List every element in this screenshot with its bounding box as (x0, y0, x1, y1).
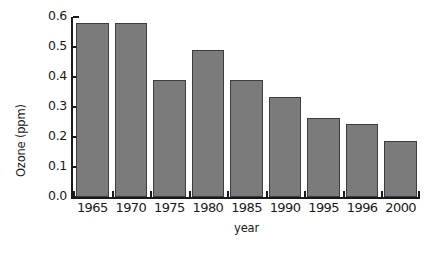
x-tick-mark (189, 191, 191, 198)
ozone-bar-chart: Ozone (ppm) 0.00.10.20.30.40.50.6 196519… (0, 0, 434, 255)
y-tick-label: 0.2 (7, 128, 67, 143)
x-tick-labels: 196519701975198019851990199519962000 (73, 200, 420, 218)
x-tick-mark (381, 191, 383, 198)
bar (307, 118, 340, 197)
x-tick-label: 1975 (150, 200, 189, 215)
bar (346, 124, 379, 197)
x-axis-line (71, 197, 420, 199)
y-tick-labels: 0.00.10.20.30.40.50.6 (5, 17, 67, 197)
x-tick-label: 1990 (266, 200, 305, 215)
bar (192, 50, 225, 197)
y-tick-label: 0.4 (7, 68, 67, 83)
x-tick-label: 1995 (304, 200, 343, 215)
x-tick-mark (73, 191, 75, 198)
bar (76, 23, 109, 197)
bar (153, 80, 186, 197)
x-tick-label: 2000 (381, 200, 420, 215)
x-tick-mark (304, 191, 306, 198)
bar (384, 141, 417, 197)
x-tick-mark (418, 191, 420, 198)
y-tick-mark (73, 16, 79, 18)
x-tick-label: 1970 (112, 200, 151, 215)
x-tick-mark (343, 191, 345, 198)
bar (230, 80, 263, 197)
y-tick-label: 0.1 (7, 158, 67, 173)
x-tick-label: 1980 (189, 200, 228, 215)
x-tick-label: 1965 (73, 200, 112, 215)
x-tick-mark (150, 191, 152, 198)
plot-area: 0.00.10.20.30.40.50.6 (73, 17, 420, 197)
x-axis-title: year (73, 221, 420, 235)
y-tick-label: 0.0 (7, 188, 67, 203)
y-tick-label: 0.3 (7, 98, 67, 113)
x-tick-label: 1985 (227, 200, 266, 215)
y-tick-label: 0.6 (7, 8, 67, 23)
x-tick-mark (112, 191, 114, 198)
y-tick-label: 0.5 (7, 38, 67, 53)
x-tick-mark (227, 191, 229, 198)
x-tick-label: 1996 (343, 200, 382, 215)
bar (115, 23, 148, 197)
x-tick-mark (266, 191, 268, 198)
bar (269, 97, 302, 198)
